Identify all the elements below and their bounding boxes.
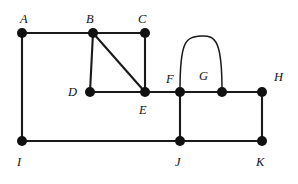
vertex-label-j: J (175, 156, 181, 169)
vertex-b[interactable] (88, 28, 98, 38)
vertex-j[interactable] (175, 136, 185, 146)
vertex-label-c: C (138, 13, 146, 26)
graph-canvas (0, 0, 298, 184)
vertex-k[interactable] (257, 136, 267, 146)
vertex-label-b: B (86, 13, 94, 26)
vertex-label-d: D (68, 86, 77, 99)
vertex-label-k: K (256, 156, 264, 169)
vertex-a[interactable] (17, 28, 27, 38)
vertex-h[interactable] (257, 87, 267, 97)
vertex-c[interactable] (140, 28, 150, 38)
edge-b-d (90, 33, 93, 92)
vertices-layer (17, 28, 267, 146)
vertex-label-f: F (166, 73, 174, 86)
edge-b-e (93, 33, 145, 92)
vertex-label-a: A (20, 13, 28, 26)
vertex-i[interactable] (17, 136, 27, 146)
graph-figure: ABCDEFGHIJK (0, 0, 298, 184)
edges-layer (22, 33, 262, 141)
vertex-f[interactable] (175, 87, 185, 97)
vertex-label-h: H (274, 71, 283, 84)
vertex-label-i: I (17, 156, 21, 169)
vertex-label-e: E (139, 104, 147, 117)
vertex-g[interactable] (217, 87, 227, 97)
vertex-d[interactable] (85, 87, 95, 97)
vertex-label-g: G (199, 70, 208, 83)
vertex-e[interactable] (140, 87, 150, 97)
